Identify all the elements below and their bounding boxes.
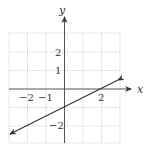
x-tick-label: −2 bbox=[19, 92, 34, 103]
x-tick-label: 2 bbox=[98, 92, 104, 103]
y-tick-label: 2 bbox=[55, 47, 61, 58]
y-axis-label: y bbox=[58, 4, 66, 17]
x-tick-label: −1 bbox=[38, 92, 53, 103]
y-tick-label: 1 bbox=[55, 65, 61, 76]
coordinate-plane: y x −2 −1 2 2 1 −2 bbox=[0, 0, 151, 155]
x-axis-label: x bbox=[137, 83, 144, 96]
y-tick-label: −2 bbox=[49, 120, 64, 131]
